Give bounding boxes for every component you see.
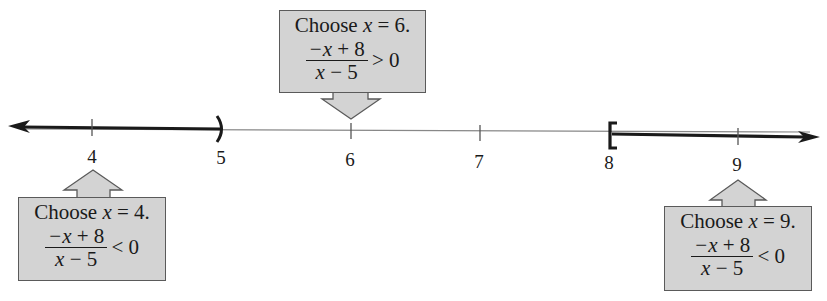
relation: > 0 <box>372 48 400 73</box>
fraction: −x + 8 x − 5 <box>306 38 368 83</box>
tick-label-7: 7 <box>464 151 494 173</box>
inequality: −x + 8 x − 5 < 0 <box>665 234 811 279</box>
up-arrow-icon <box>64 170 122 198</box>
up-arrow-icon <box>710 180 766 207</box>
fraction: −x + 8 x − 5 <box>45 225 107 270</box>
shaded-ray-right <box>612 134 805 137</box>
callout-test-4: Choose x = 4. −x + 8 x − 5 < 0 <box>18 197 166 281</box>
callout-title: Choose x = 4. <box>19 200 165 224</box>
callout-title: Choose x = 9. <box>665 209 811 233</box>
callout-test-9: Choose x = 9. −x + 8 x − 5 < 0 <box>664 206 812 291</box>
tick-label-6: 6 <box>335 149 365 171</box>
tick-label-4: 4 <box>77 146 107 168</box>
inequality: −x + 8 x − 5 > 0 <box>280 38 425 83</box>
relation: < 0 <box>757 244 785 269</box>
tick-label-5: 5 <box>206 147 236 169</box>
tick-label-8: 8 <box>594 152 624 174</box>
relation: < 0 <box>111 235 139 260</box>
shaded-ray-left <box>22 127 220 129</box>
inequality: −x + 8 x − 5 < 0 <box>19 225 165 270</box>
callout-title: Choose x = 6. <box>280 13 425 37</box>
fraction: −x + 8 x − 5 <box>691 234 753 279</box>
callout-test-6: Choose x = 6. −x + 8 x − 5 > 0 <box>279 10 426 93</box>
tick-label-9: 9 <box>722 154 752 176</box>
down-arrow-icon <box>322 92 380 119</box>
